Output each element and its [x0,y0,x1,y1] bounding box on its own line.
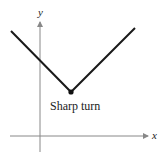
sharp-turn-label: Sharp turn [50,99,100,113]
x-axis-label: x [151,129,157,141]
sharp-turn-point [68,89,73,94]
graph-figure: y x Sharp turn [0,0,167,154]
y-axis-label: y [37,6,43,18]
v-shaped-curve [11,28,135,92]
